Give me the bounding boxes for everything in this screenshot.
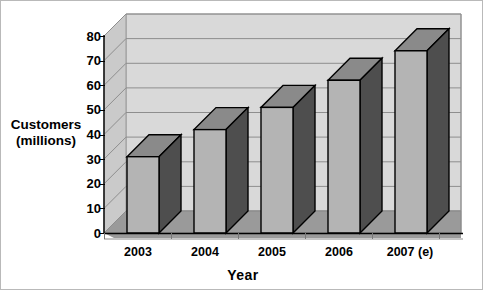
- x-tickmark-0: [104, 233, 105, 239]
- y-tick-label-20: 20: [61, 177, 101, 190]
- y-tick-label-60: 60: [61, 79, 101, 92]
- x-tickmark-1: [171, 233, 172, 239]
- y-axis-title-line-2: (millions): [3, 133, 89, 149]
- x-tickmark-4: [372, 233, 373, 239]
- y-tick-label-30: 30: [61, 153, 101, 166]
- y-tick-label-0: 0: [61, 227, 101, 240]
- y-tick-label-10: 10: [61, 202, 101, 215]
- y-tick-label-50: 50: [61, 103, 101, 116]
- x-axis-title: Year: [1, 267, 484, 283]
- bar-2004: [194, 108, 248, 233]
- y-tick-label-70: 70: [61, 54, 101, 67]
- y-tick-label-80: 80: [61, 30, 101, 43]
- x-tickmark-2: [238, 233, 239, 239]
- y-axis-title-line-1: Customers: [3, 117, 89, 133]
- chart-frame: 80 70 60 50 40 30 20 10 0 2003 2004 2005…: [0, 0, 483, 290]
- bar-chart: 80 70 60 50 40 30 20 10 0 2003 2004 2005…: [1, 1, 484, 291]
- x-tickmark-5: [439, 233, 440, 239]
- x-tick-label-2004: 2004: [174, 245, 236, 259]
- bar-2003: [127, 135, 181, 233]
- bar-2005: [261, 85, 315, 233]
- y-axis-title: Customers (millions): [3, 117, 89, 149]
- x-tick-label-2005: 2005: [241, 245, 303, 259]
- bar-2006: [328, 58, 382, 233]
- x-tickmark-3: [305, 233, 306, 239]
- bar-2007: [395, 29, 449, 233]
- x-tick-label-2007: 2007 (e): [375, 245, 445, 259]
- x-tick-label-2003: 2003: [107, 245, 169, 259]
- x-tick-label-2006: 2006: [308, 245, 370, 259]
